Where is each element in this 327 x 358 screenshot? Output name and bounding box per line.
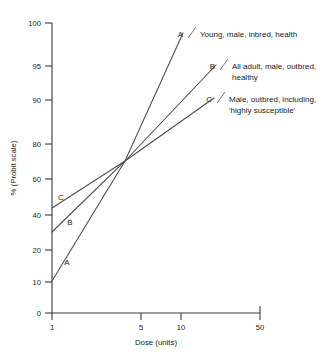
y-tick-label-95: 95	[33, 62, 41, 71]
annotation-leader-a	[188, 27, 196, 38]
x-tick-label-50: 50	[256, 323, 264, 332]
y-tick-label-100: 100	[28, 19, 41, 28]
x-axis-title: Dose (units)	[135, 338, 177, 347]
annotations-group: A Young, male, inbred, health B All adul…	[178, 27, 317, 115]
annotation-key-b: B	[210, 62, 215, 71]
probit-dose-response-chart: 100 95 90 80 60 40 20 10 0 1 5 10 50 Dos…	[0, 0, 327, 358]
inplot-series-keys: C B A	[58, 193, 73, 267]
inplot-label-a: A	[64, 258, 70, 267]
series-line-a	[52, 33, 183, 281]
y-tick-label-10: 10	[33, 278, 41, 287]
annotation-text-b-line1: All adult, male, outbred,	[232, 62, 316, 71]
annotation-key-c: C	[206, 95, 212, 104]
y-tick-label-80: 80	[33, 140, 41, 149]
annotation-leader-c	[217, 92, 225, 103]
chart-canvas: 100 95 90 80 60 40 20 10 0 1 5 10 50 Dos…	[0, 0, 327, 358]
x-tick-label-1: 1	[50, 323, 54, 332]
series-group	[52, 33, 216, 281]
inplot-label-b: B	[67, 218, 72, 227]
y-axis-ticks: 100 95 90 80 60 40 20 10 0	[28, 19, 52, 318]
annotation-leader-b	[220, 59, 228, 70]
x-tick-label-10: 10	[177, 323, 185, 332]
annotation-text-b-line2: healthy	[232, 73, 258, 82]
y-tick-label-20: 20	[33, 246, 41, 255]
y-tick-label-40: 40	[33, 211, 41, 220]
annotation-text-c-line2: 'highly susceptible'	[229, 106, 296, 115]
y-tick-label-60: 60	[33, 175, 41, 184]
series-line-b	[52, 65, 216, 232]
annotation-key-a: A	[178, 30, 184, 39]
annotation-text-a-line1: Young, male, inbred, health	[200, 30, 297, 39]
y-tick-label-90: 90	[33, 96, 41, 105]
y-axis-title: % (Probit scale)	[9, 140, 18, 195]
annotation-text-c-line1: Male, outbred, including,	[229, 95, 316, 104]
inplot-label-c: C	[58, 193, 64, 202]
axes-group	[52, 23, 260, 313]
x-tick-label-5: 5	[139, 323, 143, 332]
x-axis-ticks: 1 5 10 50	[50, 313, 264, 332]
y-tick-label-0: 0	[37, 309, 41, 318]
